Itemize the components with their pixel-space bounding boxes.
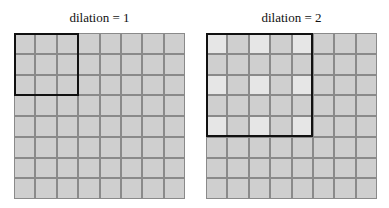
grid-cell — [101, 179, 120, 198]
grid-cell — [79, 117, 98, 136]
grid-cell — [79, 138, 98, 157]
grid-cell — [122, 159, 141, 178]
grid-cell — [58, 179, 77, 198]
grid-cell — [58, 34, 77, 53]
grid-cell — [335, 76, 354, 95]
grid-cell — [314, 117, 333, 136]
grid-cell — [165, 76, 184, 95]
grid-cell-sampled — [293, 34, 312, 53]
grid-cell — [15, 138, 34, 157]
grid-cell — [101, 138, 120, 157]
grid-cell — [165, 117, 184, 136]
grid-cell — [357, 76, 376, 95]
grid-cell — [58, 117, 77, 136]
grid-cell — [228, 96, 247, 115]
grid-cell — [357, 117, 376, 136]
grid-cell — [293, 159, 312, 178]
grid-cell-sampled — [250, 117, 269, 136]
grid-cell — [335, 138, 354, 157]
grid-cell — [228, 55, 247, 74]
grid-cell — [271, 55, 290, 74]
grid-cell-sampled — [250, 34, 269, 53]
grid-cell — [293, 138, 312, 157]
grid-cell — [36, 138, 55, 157]
grid-cell — [36, 96, 55, 115]
grid-cell — [314, 55, 333, 74]
grid-cell — [122, 34, 141, 53]
grid-cell — [15, 179, 34, 198]
grid-cell — [207, 138, 226, 157]
grid-cell — [335, 96, 354, 115]
grid-cell — [314, 138, 333, 157]
grid-cell — [122, 76, 141, 95]
grid-cell — [79, 55, 98, 74]
grid-cell — [15, 55, 34, 74]
grid-cell — [15, 34, 34, 53]
grid-cell — [79, 96, 98, 115]
grid-cell — [101, 55, 120, 74]
grid-cell-sampled — [293, 117, 312, 136]
grid-cell — [122, 179, 141, 198]
grid-cell — [165, 96, 184, 115]
grid-cell — [79, 159, 98, 178]
grid-cell-sampled — [207, 117, 226, 136]
grid-cell — [250, 159, 269, 178]
grid-cell — [228, 159, 247, 178]
grid-cell-sampled — [207, 34, 226, 53]
grid-cell — [165, 55, 184, 74]
grid-cell — [79, 34, 98, 53]
grid-cell — [228, 117, 247, 136]
grid-cell — [165, 138, 184, 157]
grid-cell — [58, 96, 77, 115]
grid-cell — [143, 76, 162, 95]
grid-cell — [335, 179, 354, 198]
grid-cell — [228, 138, 247, 157]
grid-cell — [228, 34, 247, 53]
grid-cell — [357, 55, 376, 74]
grid-cell — [314, 96, 333, 115]
grid-cell — [15, 159, 34, 178]
grid-cell — [314, 179, 333, 198]
grid-cell — [58, 76, 77, 95]
grid-cell — [15, 76, 34, 95]
grid-cell — [122, 96, 141, 115]
grid-cell-sampled — [207, 76, 226, 95]
grid-cell — [143, 117, 162, 136]
grid-cell — [335, 55, 354, 74]
grid-cell — [58, 138, 77, 157]
grid-cell — [314, 76, 333, 95]
grid-cell — [335, 159, 354, 178]
grid-cell — [314, 34, 333, 53]
grid-cell — [79, 179, 98, 198]
grid-cell — [101, 34, 120, 53]
grid-cell — [271, 34, 290, 53]
grid-cell — [143, 55, 162, 74]
grid-cell — [228, 179, 247, 198]
grid-cell — [58, 159, 77, 178]
grid-cell — [101, 159, 120, 178]
grid-cell — [250, 96, 269, 115]
grid-cell — [314, 159, 333, 178]
grid-cell — [250, 179, 269, 198]
grid-cell — [36, 117, 55, 136]
grid-cell — [165, 159, 184, 178]
grid-cell — [36, 76, 55, 95]
grid-cell — [15, 117, 34, 136]
grid-cell — [271, 117, 290, 136]
grid-cell — [101, 96, 120, 115]
grid-cell — [207, 159, 226, 178]
grid-cell — [36, 159, 55, 178]
grid-cell — [335, 117, 354, 136]
grid-cell — [271, 138, 290, 157]
grid-cell — [293, 179, 312, 198]
grid-cell — [271, 96, 290, 115]
grid-cell — [357, 179, 376, 198]
grid-cell — [101, 117, 120, 136]
grid-cell — [250, 55, 269, 74]
grid-cell — [36, 179, 55, 198]
grid-cell — [143, 138, 162, 157]
grid-cell-sampled — [293, 76, 312, 95]
grid-cell — [36, 55, 55, 74]
grid-cell — [143, 34, 162, 53]
panel-title: dilation = 1 — [14, 10, 185, 26]
